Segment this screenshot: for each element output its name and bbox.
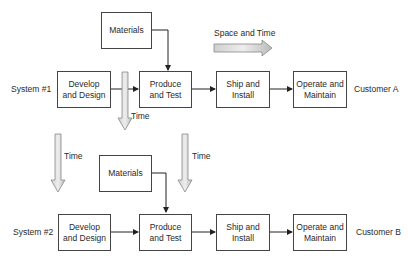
step-text: Ship and Install xyxy=(226,222,260,244)
time-label-3: Time xyxy=(192,151,211,161)
materials-text: Materials xyxy=(109,25,143,36)
ship-install-box-1: Ship and Install xyxy=(216,71,270,108)
step-text: Operate and Maintain xyxy=(296,222,343,244)
step-text: Produce and Test xyxy=(150,222,182,244)
materials-box-1: Materials xyxy=(101,12,152,49)
space-time-label: Space and Time xyxy=(214,28,275,38)
ship-install-box-2: Ship and Install xyxy=(216,214,270,251)
space-time-arrow xyxy=(214,40,272,56)
develop-design-box-2: Develop and Design xyxy=(58,214,111,251)
step-text: Develop and Design xyxy=(63,222,106,244)
step-text: Develop and Design xyxy=(62,79,105,101)
customer-b-label: Customer B xyxy=(356,227,401,237)
operate-maintain-box-1: Operate and Maintain xyxy=(293,71,347,108)
step-text: Ship and Install xyxy=(226,79,260,101)
system-1-label: System #1 xyxy=(11,84,51,94)
produce-test-box-1: Produce and Test xyxy=(139,71,192,108)
materials-box-2: Materials xyxy=(99,155,152,192)
time-arrow-2 xyxy=(51,134,65,192)
system-2-label: System #2 xyxy=(13,227,53,237)
time-arrow-3 xyxy=(178,134,192,192)
time-label-1: Time xyxy=(131,111,150,121)
step-text: Produce and Test xyxy=(150,79,182,101)
operate-maintain-box-2: Operate and Maintain xyxy=(293,214,347,251)
step-text: Operate and Maintain xyxy=(296,79,343,101)
customer-a-label: Customer A xyxy=(354,84,398,94)
materials-text: Materials xyxy=(108,168,142,179)
time-label-2: Time xyxy=(64,151,83,161)
time-arrow-1 xyxy=(118,72,132,130)
develop-design-box-1: Develop and Design xyxy=(57,71,111,108)
produce-test-box-2: Produce and Test xyxy=(139,214,192,251)
